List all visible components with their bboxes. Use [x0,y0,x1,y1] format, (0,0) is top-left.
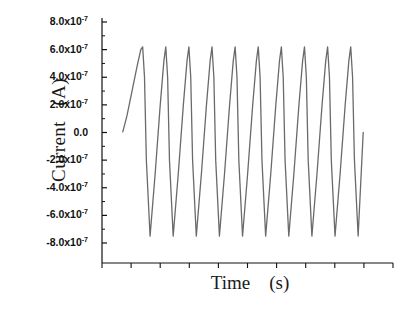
y-tick-label: 6.0x10-7 [0,44,96,55]
figure: Current (A) 8.0x10-76.0x10-74.0x10-72.0x… [0,0,414,312]
data-layer [123,47,363,236]
y-tick-label: -6.0x10-7 [0,209,96,220]
y-tick-label: -2.0x10-7 [0,154,96,165]
x-axis-title: Time (s) [120,272,380,294]
y-tick-label: 0.0 [0,127,96,138]
y-tick-label: 2.0x10-7 [0,99,96,110]
y-axis-tick-labels: 8.0x10-76.0x10-74.0x10-72.0x10-70.0-2.0x… [0,0,96,312]
y-tick-label: 8.0x10-7 [0,16,96,27]
y-tick-label: -4.0x10-7 [0,182,96,193]
y-tick-label: 4.0x10-7 [0,71,96,82]
y-tick-label: -8.0x10-7 [0,237,96,248]
series-current [123,47,363,236]
